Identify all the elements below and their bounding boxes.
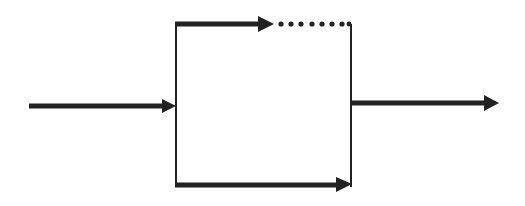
bottom-branch-arrow: [175, 177, 352, 192]
top-branch-dotted-line: [278, 21, 351, 26]
input-arrow: [29, 99, 176, 113]
output-arrow: [351, 95, 499, 111]
parallel-branch-diagram: [0, 0, 525, 206]
top-branch-arrow: [175, 16, 274, 32]
